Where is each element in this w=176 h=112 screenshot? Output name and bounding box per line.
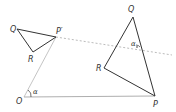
label-Q-left: Q <box>10 25 16 34</box>
label-alpha-right: α <box>131 40 136 48</box>
dashed-line <box>56 37 172 55</box>
angle-dot <box>136 46 138 48</box>
rotation-diagram: Q P′ R O α Q R P α <box>0 0 176 112</box>
label-Q-right: Q <box>128 5 134 14</box>
segment-OP <box>24 96 155 97</box>
label-R-right: R <box>96 64 102 73</box>
label-R-left: R <box>28 55 34 64</box>
label-alpha-O: α <box>33 88 38 96</box>
label-O: O <box>16 97 22 106</box>
angle-arc-O <box>28 90 31 97</box>
label-P: P <box>153 100 158 109</box>
label-P-prime: P′ <box>56 27 63 36</box>
triangle-right <box>104 17 155 96</box>
